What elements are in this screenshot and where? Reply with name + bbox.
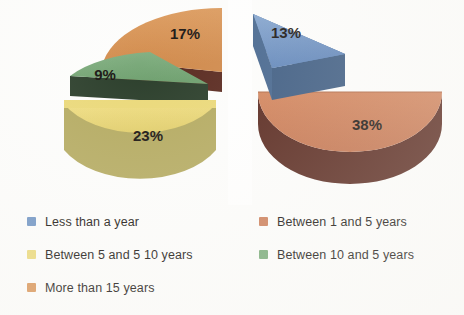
legend-swatch-icon xyxy=(27,217,36,226)
pie-plot-area: 17% 9% 23% 13% 38% xyxy=(0,0,464,205)
pie-chart-figure: 17% 9% 23% 13% 38% Less than a year Betw… xyxy=(0,0,464,315)
slice-label-13: 13% xyxy=(271,24,301,41)
slice-label-17: 17% xyxy=(170,25,200,42)
legend-swatch-icon xyxy=(259,250,268,259)
slice-label-38: 38% xyxy=(352,116,382,133)
legend-swatch-icon xyxy=(259,217,268,226)
pie-svg: 17% 9% 23% 13% 38% xyxy=(0,0,464,205)
legend-label: Between 10 and 5 years xyxy=(277,248,414,262)
legend-item-more-than-15-years[interactable]: More than 15 years xyxy=(27,271,193,304)
legend-swatch-icon xyxy=(27,283,36,292)
slice-38-3d xyxy=(258,92,442,184)
legend-swatch-icon xyxy=(27,250,36,259)
legend-item-between-10-and-5-years[interactable]: Between 10 and 5 years xyxy=(259,238,414,271)
legend-label: More than 15 years xyxy=(45,281,155,295)
legend-item-less-than-a-year[interactable]: Less than a year xyxy=(27,205,193,238)
legend-column-right: Between 1 and 5 years Between 10 and 5 y… xyxy=(259,205,414,271)
slice-23-top-band xyxy=(64,100,216,108)
slice-label-9: 9% xyxy=(94,66,116,83)
legend-item-between-5-and-10-years[interactable]: Between 5 and 5 10 years xyxy=(27,238,193,271)
slice-label-23: 23% xyxy=(133,127,163,144)
legend-label: Between 1 and 5 years xyxy=(277,215,407,229)
explode-gap xyxy=(228,0,252,205)
legend-column-left: Less than a year Between 5 and 5 10 year… xyxy=(27,205,193,304)
legend-label: Less than a year xyxy=(45,215,139,229)
chart-legend: Less than a year Between 5 and 5 10 year… xyxy=(0,205,464,315)
legend-item-between-1-and-5-years[interactable]: Between 1 and 5 years xyxy=(259,205,414,238)
legend-label: Between 5 and 5 10 years xyxy=(45,248,193,262)
